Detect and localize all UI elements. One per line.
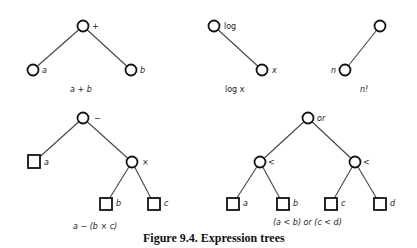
- node-label: log: [224, 22, 236, 31]
- node-c-leaf: [148, 198, 160, 210]
- tree-caption: n!: [360, 85, 368, 94]
- node-x: [257, 65, 268, 76]
- edge: [214, 26, 262, 70]
- tree-caption: (a < b) or (c < d): [273, 218, 342, 227]
- node-minus: [78, 113, 89, 124]
- node-label: b: [293, 199, 298, 208]
- edge: [83, 26, 131, 70]
- node-a-leaf: [227, 198, 239, 210]
- node-label: c: [164, 199, 169, 208]
- tree-a-plus-b: + a b a + b: [28, 21, 146, 95]
- tree-n-factorial: n n!: [331, 21, 386, 95]
- node-label: −: [94, 114, 101, 123]
- node-b-leaf: [100, 198, 112, 210]
- node-label: or: [317, 114, 326, 123]
- node-b: [126, 65, 137, 76]
- node-label: a: [243, 199, 248, 208]
- edge: [34, 118, 83, 162]
- edge: [345, 26, 380, 70]
- edge: [260, 118, 308, 162]
- node-label: x: [271, 66, 277, 75]
- node-label: +: [92, 22, 99, 31]
- node-a-leaf: [28, 155, 40, 168]
- node-less-than-right: [350, 157, 361, 168]
- node-label: c: [341, 199, 346, 208]
- node-label: d: [390, 199, 396, 208]
- tree-a-lt-b-or-c-lt-d: or < < a b c d (a < b) or (c < d): [227, 113, 396, 228]
- node-label: <: [268, 158, 275, 167]
- node-b-leaf: [277, 198, 289, 210]
- node-label: a: [42, 66, 47, 75]
- tree-a-minus-b-times-c: − a × b c a − (b × c): [28, 113, 169, 232]
- edge: [33, 26, 83, 70]
- edge: [308, 118, 355, 162]
- node-label: b: [140, 66, 145, 75]
- node-factorial: [375, 21, 386, 32]
- node-label: n: [331, 66, 336, 75]
- tree-caption: a + b: [70, 85, 92, 94]
- node-label: b: [116, 199, 121, 208]
- node-less-than-left: [255, 157, 266, 168]
- node-label: <: [363, 158, 370, 167]
- tree-log-x: log x log x: [209, 21, 278, 95]
- tree-caption: log x: [225, 85, 245, 94]
- node-or: [303, 113, 314, 124]
- node-n: [340, 65, 351, 76]
- node-label: a: [44, 158, 49, 167]
- figure-caption: Figure 9.4. Expression trees: [143, 231, 285, 245]
- node-c-leaf: [325, 198, 337, 210]
- node-a: [28, 65, 39, 76]
- node-plus: [78, 21, 89, 32]
- expression-trees-figure: + a b a + b log x log x n n! − a × b c: [0, 0, 417, 248]
- tree-caption: a − (b × c): [73, 222, 117, 231]
- node-log: [209, 21, 220, 32]
- node-times: [127, 157, 138, 168]
- node-d-leaf: [374, 198, 386, 210]
- edge: [83, 118, 132, 162]
- node-label: ×: [142, 158, 149, 167]
